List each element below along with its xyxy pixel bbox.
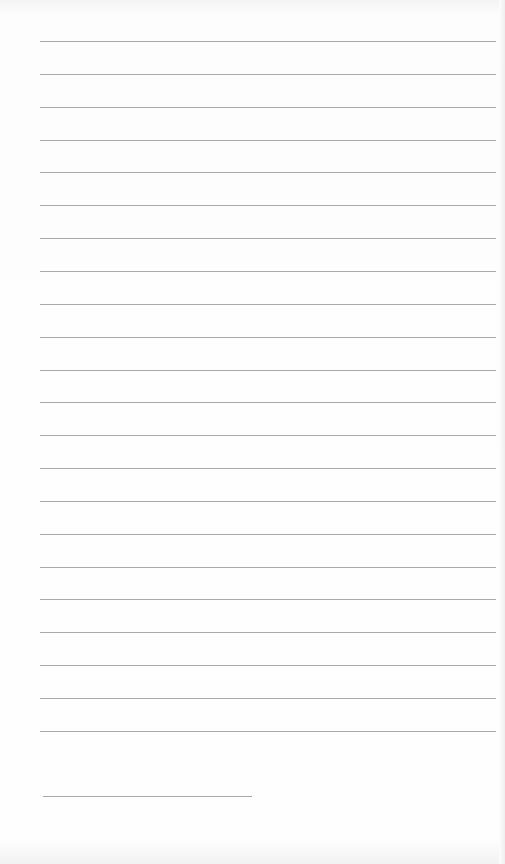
ruled-line	[40, 468, 496, 469]
ruled-line	[40, 501, 496, 502]
ruled-line	[40, 205, 496, 206]
ruled-line	[40, 665, 496, 666]
ruled-line	[40, 435, 496, 436]
page-edge-shadow	[499, 0, 505, 864]
ruled-line	[40, 107, 496, 108]
ruled-line	[40, 337, 496, 338]
lined-paper-page	[0, 0, 505, 864]
ruled-line	[40, 698, 496, 699]
ruled-line	[40, 567, 496, 568]
signature-line	[43, 796, 252, 797]
ruled-line	[40, 402, 496, 403]
ruled-line	[40, 731, 496, 732]
ruled-line	[40, 370, 496, 371]
ruled-line	[40, 534, 496, 535]
ruled-line	[40, 238, 496, 239]
ruled-line	[40, 74, 496, 75]
ruled-line	[40, 271, 496, 272]
ruled-line	[40, 172, 496, 173]
ruled-line	[40, 304, 496, 305]
ruled-line	[40, 140, 496, 141]
ruled-line	[40, 632, 496, 633]
ruled-line	[40, 41, 496, 42]
ruled-line	[40, 599, 496, 600]
